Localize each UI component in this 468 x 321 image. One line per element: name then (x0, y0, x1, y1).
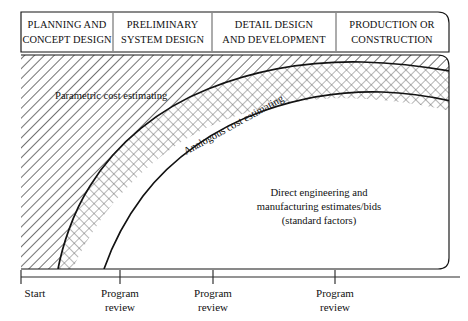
phase-label-line1: PRODUCTION OR (349, 19, 434, 30)
phase-label-line1: DETAIL DESIGN (235, 19, 314, 30)
axis-label-start: Start (25, 287, 46, 299)
parametric-region-label: Parametric cost estimating (55, 90, 168, 101)
phase-label-line1: PRELIMINARY (127, 19, 199, 30)
phase-label-line2: CONCEPT DESIGN (22, 34, 112, 45)
phase-label-line2: AND DEVELOPMENT (222, 34, 326, 45)
axis-label-line2: review (198, 301, 228, 313)
direct-engineering-line1: Direct engineering and (270, 187, 368, 198)
axis-label-line2: review (320, 301, 350, 313)
axis-label-line1: Start (25, 287, 46, 299)
diagram-canvas: PLANNING AND CONCEPT DESIGN PRELIMINARY … (0, 0, 468, 321)
axis-label-program-review-2: Program review (194, 287, 232, 313)
phase-label-line1: PLANNING AND (28, 19, 107, 30)
cost-estimating-diagram: PLANNING AND CONCEPT DESIGN PRELIMINARY … (0, 0, 468, 321)
axis-label-program-review-3: Program review (316, 287, 354, 313)
phase-header-outer-box (21, 12, 449, 52)
plot-body (21, 55, 455, 269)
axis-label-line2: review (105, 301, 135, 313)
phase-header-row: PLANNING AND CONCEPT DESIGN PRELIMINARY … (21, 12, 449, 52)
direct-engineering-line3: (standard factors) (282, 215, 357, 227)
phase-label-line2: CONSTRUCTION (351, 34, 433, 45)
axis-label-program-review-1: Program review (101, 287, 139, 313)
phase-cell-detail-design-development: DETAIL DESIGN AND DEVELOPMENT (222, 19, 326, 45)
phase-cell-planning-concept-design: PLANNING AND CONCEPT DESIGN (22, 19, 112, 45)
axis-label-line1: Program (194, 287, 232, 299)
axis-label-line1: Program (101, 287, 139, 299)
axis-label-line1: Program (316, 287, 354, 299)
x-axis: Start Program review Program review Prog… (21, 270, 460, 313)
direct-engineering-line2: manufacturing estimates/bids (257, 201, 381, 212)
phase-cell-preliminary-system-design: PRELIMINARY SYSTEM DESIGN (121, 19, 204, 45)
phase-cell-production-construction: PRODUCTION OR CONSTRUCTION (349, 19, 434, 45)
phase-label-line2: SYSTEM DESIGN (121, 34, 204, 45)
